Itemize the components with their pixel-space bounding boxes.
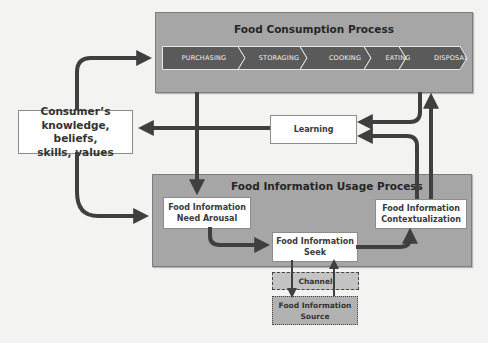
arrow-seek-to-contextualization <box>356 235 410 247</box>
connector-arrows <box>0 0 488 343</box>
arrow-need-arousal-to-seek <box>210 227 263 245</box>
arrow-consumer-to-usage <box>77 152 142 216</box>
arrow-contextualization-to-learning <box>364 136 417 199</box>
arrow-consumption-to-learning <box>364 92 420 122</box>
arrow-consumer-to-consumption <box>77 58 145 110</box>
